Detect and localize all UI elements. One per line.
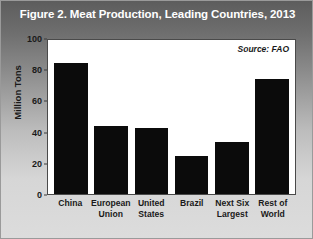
bar-series: [48, 40, 295, 194]
y-tick-label: 20: [32, 159, 42, 169]
x-tick-label-line: United: [131, 198, 172, 209]
x-tick-label: EuropeanUnion: [91, 198, 132, 220]
bar-slot: [172, 40, 212, 194]
x-tick-label: UnitedStates: [131, 198, 172, 220]
y-tick-label: 0: [37, 190, 42, 200]
x-tick-label: China: [50, 198, 91, 220]
bar-slot: [212, 40, 252, 194]
bar-slot: [91, 40, 131, 194]
y-tick-label: 80: [32, 65, 42, 75]
plot-area: Source: FAO: [47, 39, 296, 195]
bar-slot: [252, 40, 292, 194]
x-tick-label-line: Rest of: [253, 198, 294, 209]
bar-slot: [51, 40, 91, 194]
x-tick-label-line: Largest: [212, 209, 253, 220]
x-tick-label-line: European: [91, 198, 132, 209]
figure-panel: Figure 2. Meat Production, Leading Count…: [0, 0, 313, 239]
x-tick-label-line: States: [131, 209, 172, 220]
bar-european-union: [94, 126, 128, 194]
y-tick-label: 100: [27, 34, 42, 44]
y-axis-label: Million Tons: [12, 58, 23, 128]
bar-rest-of-world: [255, 79, 289, 195]
x-tick-label-line: China: [50, 198, 91, 209]
x-tick-label: Rest ofWorld: [253, 198, 294, 220]
bar-china: [54, 63, 88, 194]
bar-united-states: [135, 128, 169, 194]
x-axis-labels: ChinaEuropeanUnionUnitedStatesBrazilNext…: [47, 198, 296, 220]
x-tick-label-line: Brazil: [172, 198, 213, 209]
y-tick-label: 60: [32, 96, 42, 106]
bar-brazil: [175, 156, 209, 195]
x-tick-label-line: Next Six: [212, 198, 253, 209]
x-tick-label-line: World: [253, 209, 294, 220]
figure-title: Figure 2. Meat Production, Leading Count…: [1, 8, 313, 20]
y-tick-label: 40: [32, 128, 42, 138]
x-tick-label-line: Union: [91, 209, 132, 220]
bar-slot: [131, 40, 171, 194]
x-tick-label: Brazil: [172, 198, 213, 220]
x-tick-label: Next SixLargest: [212, 198, 253, 220]
bar-next-six-largest: [215, 142, 249, 194]
y-axis-ticks: 020406080100: [23, 35, 47, 199]
